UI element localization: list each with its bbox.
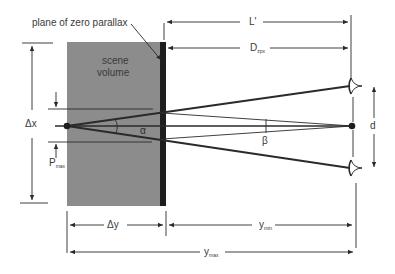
scene-label-line2: volume bbox=[97, 68, 129, 78]
plane-of-zero-parallax-label: plane of zero parallax bbox=[32, 18, 128, 28]
pmax-sub: max bbox=[56, 163, 65, 169]
L-prime-label: L' bbox=[249, 17, 256, 27]
convergence-line-top bbox=[162, 113, 352, 126]
Dzpx-sub: zpx bbox=[257, 48, 265, 54]
delta-y-label: Δy bbox=[107, 220, 119, 230]
right-point-dot bbox=[349, 123, 356, 130]
Dzpx-label: Dzpx bbox=[250, 43, 265, 54]
pmax-main: P bbox=[49, 157, 56, 168]
ymax-sub: max bbox=[209, 252, 218, 258]
scene-label-line1: scene bbox=[102, 56, 129, 66]
alpha-label: α bbox=[140, 126, 146, 136]
delta-x-label: Δx bbox=[25, 119, 37, 129]
d-label: d bbox=[370, 121, 376, 131]
pmax-label: Pmax bbox=[49, 158, 65, 169]
beta-label: β bbox=[262, 136, 268, 146]
convergence-line-bottom bbox=[162, 126, 352, 139]
left-point-dot bbox=[64, 123, 71, 130]
ymin-label: ymin bbox=[259, 220, 272, 231]
stereo-geometry-diagram bbox=[0, 0, 395, 274]
zero-parallax-plane bbox=[160, 42, 166, 206]
ymax-label: ymax bbox=[204, 247, 218, 258]
eye-icon-top bbox=[349, 78, 362, 94]
eye-icon-bottom bbox=[349, 160, 362, 176]
ymin-sub: min bbox=[264, 225, 272, 231]
